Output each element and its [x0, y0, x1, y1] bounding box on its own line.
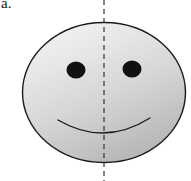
left-eye: [67, 61, 86, 78]
symmetry-figure-svg: [0, 0, 191, 181]
right-eye: [123, 60, 142, 77]
figure-container: a.: [0, 0, 191, 181]
